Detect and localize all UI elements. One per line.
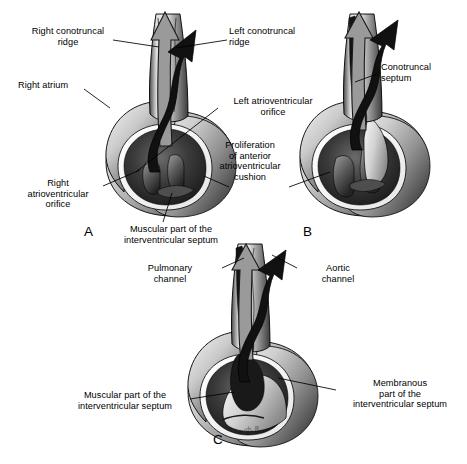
label-muscular-ivs-a: Muscular part of the interventricular se… — [110, 224, 232, 245]
panel-letter-c: C — [213, 432, 223, 447]
panel-letter-b: B — [303, 224, 312, 239]
label-right-av-orifice: Right atrioventricular orifice — [12, 178, 104, 210]
panel-letter-a: A — [84, 224, 93, 239]
label-membranous-ivs: Membranous part of the interventricular … — [338, 378, 462, 410]
label-right-conotruncal-ridge: Right conotruncal ridge — [20, 26, 116, 47]
left-av-cushion — [168, 155, 184, 191]
proliferating-cushion-b — [333, 156, 354, 197]
label-pulmonary-channel: Pulmonary channel — [124, 263, 216, 284]
label-left-conotruncal-ridge: Left conotruncal ridge — [229, 26, 325, 47]
artist-signature: ah. R. — [244, 424, 261, 434]
label-conotruncal-septum: Conotruncal septum — [381, 62, 465, 83]
label-aortic-channel: Aortic channel — [300, 263, 376, 284]
label-muscular-ivs-c: Muscular part of the interventricular se… — [62, 390, 188, 411]
label-proliferation-cushion: Proliferation of anterior atrioventricul… — [212, 140, 288, 182]
label-left-av-orifice: Left atrioventricular orifice — [220, 96, 326, 117]
figure-canvas: Right conotruncal ridge Left conotruncal… — [0, 0, 467, 464]
label-right-atrium: Right atrium — [18, 80, 102, 91]
leader-right-atrium — [84, 89, 110, 108]
